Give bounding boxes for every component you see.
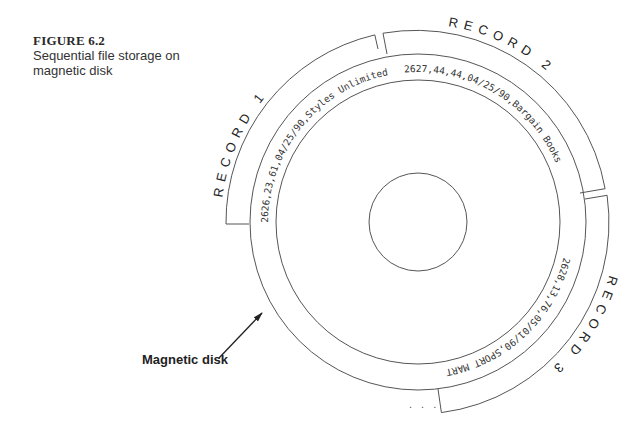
record-2-label: RECORD 2 xyxy=(447,14,558,77)
disk-outer-edge xyxy=(250,54,586,390)
record-2-bracket xyxy=(383,30,605,193)
record-3-data: 2628,13,76,05/01/90,SPORT MART xyxy=(445,257,572,379)
magnetic-disk-label: Magnetic disk xyxy=(142,352,229,367)
disk-track-inner-edge xyxy=(276,80,560,364)
continuation-dots: . . . xyxy=(409,398,439,410)
record-1-label: RECORD 1 xyxy=(210,86,270,198)
disk-hub xyxy=(369,173,467,271)
record-3-bracket xyxy=(438,195,609,412)
disk-diagram: 2626,23,61,04/25/90,Styles Unlimited 262… xyxy=(0,0,643,436)
